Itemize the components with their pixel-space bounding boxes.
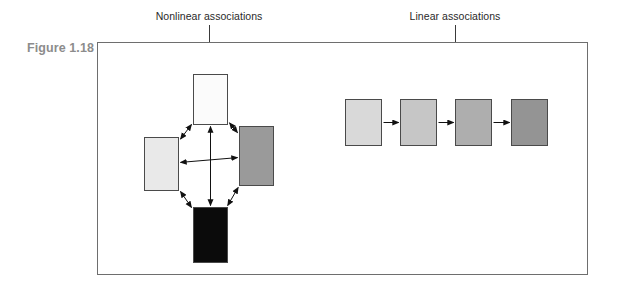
node-box-step-3	[455, 99, 492, 146]
node-box-step-2	[400, 99, 437, 146]
node-box-bottom	[193, 207, 228, 263]
figure-canvas: Figure 1.18 Nonlinear associations Linea…	[0, 0, 618, 289]
node-box-top	[193, 74, 228, 125]
callout-label-linear: Linear associations	[410, 10, 501, 22]
node-box-right	[239, 126, 274, 186]
node-box-step-4	[511, 99, 548, 146]
figure-number-label: Figure 1.18	[14, 41, 94, 55]
node-box-step-1	[345, 99, 382, 146]
node-box-left	[144, 137, 179, 191]
callout-label-nonlinear: Nonlinear associations	[156, 10, 263, 22]
